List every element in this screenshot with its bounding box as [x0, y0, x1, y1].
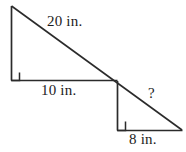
- shared-hypotenuse-line: [12, 6, 183, 130]
- label-hypotenuse-large: 20 in.: [47, 14, 82, 29]
- triangle-diagram-svg: [0, 0, 186, 152]
- label-base-large: 10 in.: [41, 83, 76, 98]
- geometry-figure: 20 in. 10 in. 8 in. ?: [0, 0, 186, 152]
- label-base-small: 8 in.: [129, 132, 157, 147]
- right-angle-marker-large-triangle: [12, 73, 20, 81]
- label-unknown-side: ?: [148, 86, 155, 101]
- right-angle-marker-small-triangle: [118, 122, 126, 131]
